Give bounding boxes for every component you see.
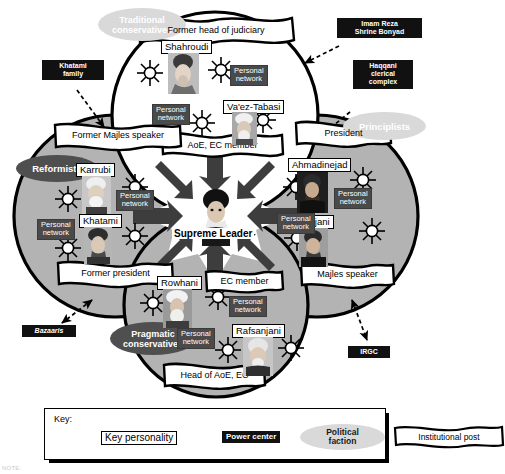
post-label: Former president <box>58 268 173 278</box>
power-center-haqqani-clerical-complex: Haqqani clerical complex <box>353 60 413 89</box>
post-former-president: Former president <box>58 264 173 282</box>
power-line1: Khatami <box>59 62 87 69</box>
person-name-khatami: Khatami <box>79 214 122 228</box>
power-line2: family <box>63 70 83 77</box>
faction-label-line1: Pragmatic <box>131 329 175 339</box>
power-line2: Shrine Bonyad <box>355 28 404 35</box>
power-line1: Haqqani <box>369 62 397 69</box>
post-former-majles-speaker: Former Majles speaker <box>55 126 181 144</box>
post-label: Former Majles speaker <box>55 130 181 140</box>
post-president: President <box>296 124 391 142</box>
power-line2: clerical <box>371 70 395 77</box>
faction-label: Reformists <box>32 163 82 174</box>
key-item-power-center: Power center <box>222 431 280 443</box>
power-line1: Bazaaris <box>35 327 64 334</box>
key-post-label: Institutional post <box>393 432 505 442</box>
photo-larijani <box>299 228 328 267</box>
key-item-institutional-post: Institutional post <box>393 425 505 449</box>
photo-ahmadinejad <box>297 172 328 213</box>
personal-network-tag-rowhani: Personal network <box>229 296 267 317</box>
person-name-karrubi: Karrubi <box>76 163 115 177</box>
pnet-line2: network <box>283 222 309 231</box>
post-label: President <box>296 128 391 138</box>
key-faction-line1: Political <box>326 427 359 437</box>
connector-imam-reza <box>305 46 339 63</box>
personal-network-tag-shahroudi: Personal network <box>230 65 268 86</box>
power-center-irgc: IRGC <box>348 346 390 358</box>
personal-network-tag-ahmadinejad: Personal network <box>334 188 372 209</box>
photo-vaez-tabasi <box>232 112 257 145</box>
key-legend: Key: Key personality Power center Politi… <box>44 408 386 460</box>
key-item-key-personality: Key personality <box>101 431 177 445</box>
personal-network-tag-larijani: Personal network <box>277 213 315 234</box>
post-label: Former head of judiciary <box>138 25 294 35</box>
pnet-line2: network <box>235 305 261 314</box>
pnet-line2: network <box>43 228 69 237</box>
post-label: EC member <box>206 276 283 286</box>
post-label: Majles speaker <box>301 269 394 279</box>
photo-rafsanjani <box>243 337 273 376</box>
photo-shahroudi <box>168 53 199 94</box>
personal-network-tag-rafsanjani: Personal network <box>177 328 215 349</box>
power-center-khatami-family: Khatami family <box>42 60 104 80</box>
pnet-line2: network <box>236 74 262 83</box>
power-line1: IRGC <box>360 348 378 355</box>
person-name-rowhani: Rowhani <box>157 276 202 290</box>
power-line1: Imam Reza <box>361 20 398 27</box>
personal-network-tag-khatami: Personal network <box>37 219 75 240</box>
power-center-imam-reza-shrine-bonyad: Imam Reza Shrine Bonyad <box>337 18 422 38</box>
pnet-line2: network <box>122 199 148 208</box>
pnet-line2: network <box>183 337 209 346</box>
faction-label-line2: conservatives <box>123 339 183 349</box>
person-name-shahroudi: Shahroudi <box>161 40 212 54</box>
key-item-political-faction: Political faction <box>300 424 385 450</box>
personal-network-tag-karrubi: Personal network <box>116 190 154 211</box>
power-center-bazaaris: Bazaaris <box>22 325 76 337</box>
photo-khatami <box>84 227 112 264</box>
supreme-leader-label: Supreme Leader <box>172 228 254 239</box>
pnet-line2: network <box>340 197 366 206</box>
key-title: Key: <box>54 414 72 424</box>
power-line3: complex <box>369 78 397 85</box>
key-faction-line2: faction <box>329 436 357 446</box>
person-name-ahmadinejad: Ahmadinejad <box>288 158 351 172</box>
post-former-head-of-judiciary: Former head of judiciary <box>138 20 294 40</box>
person-name-rafsanjani: Rafsanjani <box>232 324 285 338</box>
bottom-note: NOTE: <box>2 465 21 471</box>
photo-rowhani <box>163 289 192 328</box>
post-majles-speaker: Majles speaker <box>301 265 394 283</box>
pnet-line2: network <box>158 113 184 122</box>
photo-karrubi <box>82 176 111 214</box>
personal-network-tag-vaez-tabasi: Personal network <box>152 104 190 125</box>
post-ec-member: EC member <box>206 272 283 289</box>
